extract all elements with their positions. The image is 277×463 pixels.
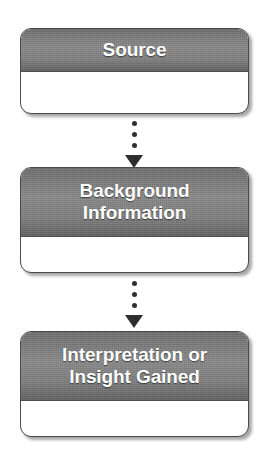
connector-source-to-background xyxy=(123,121,145,168)
arrow-down-icon xyxy=(125,315,143,328)
connector-dot xyxy=(132,132,137,137)
connector-background-to-interpretation xyxy=(123,281,145,328)
node-interpretation-or-insight-gained-label: Interpretation or Insight Gained xyxy=(56,344,213,388)
connector-dot xyxy=(132,281,137,286)
node-background-information-header: Background Information xyxy=(21,168,248,237)
node-source-header: Source xyxy=(21,29,248,72)
node-source-label: Source xyxy=(97,39,173,61)
node-interpretation-or-insight-gained-header: Interpretation or Insight Gained xyxy=(21,332,248,401)
node-background-information[interactable]: Background Information xyxy=(20,167,249,273)
connector-dot xyxy=(132,303,137,308)
connector-dot xyxy=(132,292,137,297)
connector-dot xyxy=(132,121,137,126)
connector-dot xyxy=(132,143,137,148)
node-background-information-label: Background Information xyxy=(74,180,196,224)
node-source[interactable]: Source xyxy=(20,28,249,114)
flow-diagram: Source Background Information Interpreta… xyxy=(0,0,277,463)
node-interpretation-or-insight-gained[interactable]: Interpretation or Insight Gained xyxy=(20,331,249,437)
